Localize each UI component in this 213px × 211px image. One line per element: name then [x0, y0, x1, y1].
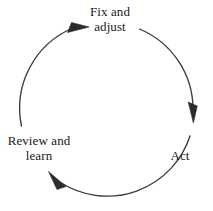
- cycle-diagram: Fix and adjust Act Review and learn: [0, 0, 213, 211]
- arrow-fix-adjust-to-act: [140, 29, 198, 123]
- node-label-fix-adjust-line-2: adjust: [76, 19, 144, 34]
- node-label-fix-adjust-line-1: Fix and: [76, 4, 144, 19]
- node-label-act-line-1: Act: [163, 148, 197, 163]
- node-label-review-learn-line-2: learn: [1, 148, 77, 163]
- arrow-review-learn-to-fix-adjust: [20, 23, 89, 127]
- arrowhead-to-act: [188, 102, 197, 123]
- node-label-act: Act: [163, 148, 197, 163]
- arc-review-learn-to-fix-adjust: [20, 28, 73, 126]
- arrowhead-to-review-learn: [49, 172, 67, 190]
- node-label-fix-adjust: Fix and adjust: [76, 4, 144, 34]
- arc-fix-adjust-to-act: [140, 29, 194, 109]
- arc-act-to-review-learn: [61, 136, 191, 196]
- node-label-review-learn-line-1: Review and: [1, 133, 77, 148]
- node-label-review-learn: Review and learn: [1, 133, 77, 163]
